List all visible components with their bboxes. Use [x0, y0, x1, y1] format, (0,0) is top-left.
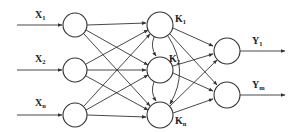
input-node-x1 [63, 13, 87, 37]
hidden-output-connections [170, 28, 217, 113]
label-k2: K2 [169, 53, 180, 65]
hidden-layer [147, 12, 173, 128]
label-kn: Kn [175, 115, 187, 127]
neural-network-diagram: X1 X2 Xn K1 K2 Kn Y1 Ym [0, 0, 297, 132]
label-x2: X2 [35, 53, 45, 65]
output-layer [214, 38, 240, 108]
output-node-ym [214, 82, 240, 108]
input-hidden-connections [84, 23, 150, 117]
label-ym: Ym [252, 79, 265, 91]
output-node-y1 [214, 38, 240, 64]
label-xn: Xn [35, 97, 46, 109]
hidden-node-kn [147, 102, 173, 128]
input-layer [63, 13, 87, 127]
input-node-x2 [63, 58, 87, 82]
label-y1: Y1 [252, 35, 262, 47]
hidden-node-k1 [147, 12, 173, 38]
label-k1: K1 [175, 13, 186, 25]
label-x1: X1 [35, 9, 45, 21]
input-node-xn [63, 103, 87, 127]
